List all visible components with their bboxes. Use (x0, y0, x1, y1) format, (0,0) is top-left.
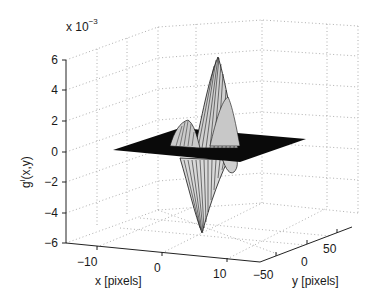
z-label-tail: (x,y) (19, 156, 33, 179)
y-tick-label: 50 (323, 243, 336, 255)
y-tick-label: −50 (253, 269, 273, 281)
z-multiplier-label: x 10−3 (66, 20, 98, 33)
surface-negative-lobe (180, 156, 237, 233)
x-tick-label: 0 (154, 262, 161, 274)
x-tick-label: −10 (77, 256, 97, 268)
z-tick-label: −4 (28, 207, 58, 219)
z-tick-label: 4 (28, 84, 58, 96)
z-tick-label: −6 (28, 237, 58, 249)
z-multiplier-base: x 10 (66, 20, 89, 34)
z-tick-label: 2 (28, 115, 58, 127)
z-tick-label: 6 (28, 54, 58, 66)
z-multiplier-exponent: −3 (89, 17, 98, 26)
y-tick-label: 0 (301, 256, 308, 268)
surface-positive-lobe (170, 57, 240, 148)
surface-plot-figure: x 10−3 6 4 2 0 −2 −4 −6 gl(x,y) −10 0 10… (0, 0, 371, 306)
y-axis-label: y [pixels] (292, 275, 339, 287)
x-axis-label: x [pixels] (95, 275, 142, 287)
x-tick-label: 10 (213, 268, 226, 280)
z-label-base: g (19, 181, 33, 188)
z-axis-label: gl(x,y) (19, 156, 32, 188)
